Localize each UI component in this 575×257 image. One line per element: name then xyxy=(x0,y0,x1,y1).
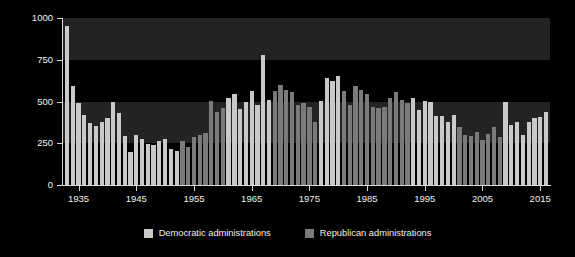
x-tick-mark xyxy=(540,186,541,191)
bar xyxy=(503,102,507,186)
bar xyxy=(544,112,548,185)
bar xyxy=(394,92,398,185)
y-tick-mark xyxy=(57,18,62,19)
bar xyxy=(376,108,380,185)
x-tick-mark xyxy=(194,186,195,191)
x-tick-label: 1995 xyxy=(405,193,445,204)
background-band xyxy=(63,18,550,60)
bar xyxy=(498,137,502,185)
bar xyxy=(301,103,305,185)
bar xyxy=(515,122,519,185)
bar xyxy=(296,105,300,185)
bar xyxy=(469,136,473,185)
bar xyxy=(128,152,132,185)
bar xyxy=(371,107,375,185)
y-tick-label: 1000 xyxy=(13,13,53,23)
bar xyxy=(411,98,415,185)
bar xyxy=(255,105,259,185)
bar xyxy=(353,86,357,185)
bar xyxy=(440,116,444,185)
bar xyxy=(538,117,542,185)
bar xyxy=(76,103,80,185)
bar xyxy=(209,101,213,185)
bar xyxy=(388,98,392,185)
bar xyxy=(463,135,467,185)
bar xyxy=(105,118,109,185)
chart-legend: Democratic administrationsRepublican adm… xyxy=(0,224,575,242)
bar xyxy=(325,78,329,185)
bar xyxy=(452,115,456,185)
bar xyxy=(71,86,75,185)
y-tick-label: 0 xyxy=(13,180,53,190)
bar xyxy=(475,132,479,185)
bar xyxy=(134,135,138,185)
bar xyxy=(428,102,432,186)
bar xyxy=(221,108,225,185)
bar xyxy=(157,141,161,185)
bar xyxy=(123,136,127,185)
bar xyxy=(492,127,496,185)
x-tick-label: 1935 xyxy=(59,193,99,204)
legend-swatch-icon xyxy=(144,229,153,238)
bar xyxy=(365,94,369,185)
bar xyxy=(405,103,409,185)
bar xyxy=(359,90,363,185)
bar xyxy=(527,122,531,185)
x-tick-mark xyxy=(252,186,253,191)
bar xyxy=(82,115,86,185)
y-tick-mark xyxy=(57,185,62,186)
bar xyxy=(330,81,334,185)
bar xyxy=(273,91,277,185)
bar xyxy=(146,144,150,185)
bar xyxy=(417,110,421,185)
bar xyxy=(65,26,69,185)
bar xyxy=(94,126,98,185)
y-tick-label: 250 xyxy=(13,138,53,148)
x-tick-mark xyxy=(136,186,137,191)
bar xyxy=(278,85,282,185)
plot-area xyxy=(63,18,550,185)
bar xyxy=(307,107,311,185)
bar xyxy=(267,100,271,185)
bar xyxy=(261,55,265,185)
x-tick-label: 1985 xyxy=(347,193,387,204)
legend-label: Democratic administrations xyxy=(159,228,271,239)
bar xyxy=(457,127,461,185)
bar xyxy=(250,91,254,185)
bar xyxy=(100,122,104,185)
bar xyxy=(232,94,236,185)
bar xyxy=(313,122,317,185)
bar xyxy=(203,133,207,185)
bar xyxy=(175,151,179,185)
bar xyxy=(140,139,144,185)
bar xyxy=(319,101,323,185)
x-tick-label: 1945 xyxy=(116,193,156,204)
chart-figure: TOTAL UNILATERAL ACTIONS 02505007501000 … xyxy=(0,0,575,257)
bar xyxy=(163,139,167,185)
x-tick-label: 2015 xyxy=(520,193,560,204)
legend-label: Republican administrations xyxy=(320,228,432,239)
bar xyxy=(226,98,230,185)
bar xyxy=(186,147,190,185)
bar xyxy=(434,116,438,185)
bar xyxy=(342,91,346,185)
y-tick-mark xyxy=(57,60,62,61)
y-tick-label: 750 xyxy=(13,55,53,65)
x-tick-label: 1965 xyxy=(232,193,272,204)
bar xyxy=(348,105,352,185)
legend-item[interactable]: Democratic administrations xyxy=(144,228,271,239)
bar xyxy=(446,122,450,185)
bar xyxy=(244,102,248,186)
legend-item[interactable]: Republican administrations xyxy=(305,228,432,239)
x-tick-label: 1975 xyxy=(289,193,329,204)
bar xyxy=(151,145,155,185)
x-tick-mark xyxy=(482,186,483,191)
bar xyxy=(111,102,115,186)
x-tick-mark xyxy=(79,186,80,191)
bar xyxy=(400,100,404,185)
bar xyxy=(192,137,196,185)
x-tick-label: 1955 xyxy=(174,193,214,204)
bar xyxy=(88,123,92,185)
bar xyxy=(336,76,340,185)
bar xyxy=(117,113,121,185)
